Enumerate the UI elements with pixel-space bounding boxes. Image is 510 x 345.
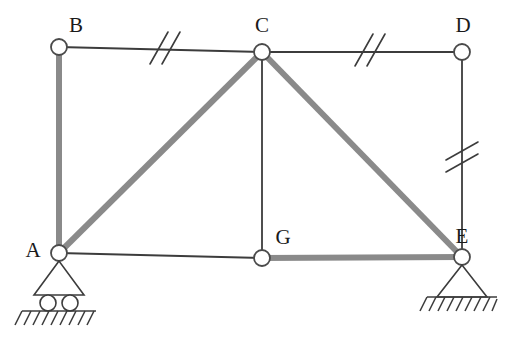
- member-CE: [262, 52, 462, 257]
- node-label-E: E: [456, 224, 469, 248]
- support-A-ground-hatching: [15, 311, 94, 325]
- tick-mark-CD: [355, 34, 385, 66]
- node-D[interactable]: [454, 44, 470, 60]
- node-C[interactable]: [254, 44, 270, 60]
- node-B[interactable]: [51, 39, 67, 55]
- member-BC: [59, 47, 262, 52]
- member-GE: [262, 257, 462, 258]
- node-labels-group: A B C D E G: [25, 13, 470, 262]
- support-E-triangle: [437, 265, 487, 297]
- truss-diagram-svg: A B C D E G: [0, 0, 510, 345]
- nodes-group: [51, 39, 470, 266]
- node-label-G: G: [275, 225, 290, 249]
- node-label-D: D: [455, 13, 470, 37]
- support-A-roller-wheel-left: [40, 295, 56, 311]
- node-label-B: B: [69, 13, 83, 37]
- node-E[interactable]: [454, 249, 470, 265]
- node-G[interactable]: [254, 250, 270, 266]
- support-A-roller: [15, 261, 96, 325]
- member-AG: [59, 253, 262, 258]
- node-label-C: C: [255, 13, 269, 37]
- support-A-triangle: [34, 261, 84, 295]
- member-AC: [59, 52, 262, 253]
- support-A-roller-wheel-right: [62, 295, 78, 311]
- thick-members-group: [59, 47, 462, 258]
- thin-members-group: [59, 47, 462, 258]
- tick-mark-BC: [150, 32, 180, 64]
- truss-diagram-canvas: A B C D E G: [0, 0, 510, 345]
- support-E-ground-hatching: [420, 297, 497, 311]
- node-label-A: A: [25, 238, 41, 262]
- support-E-pinned: [420, 265, 497, 311]
- node-A[interactable]: [51, 245, 67, 261]
